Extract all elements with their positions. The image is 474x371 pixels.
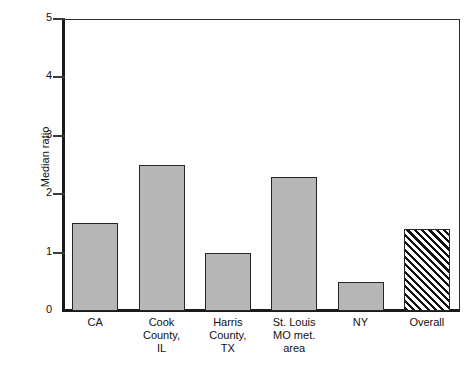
y-tick-label: 2 — [46, 186, 52, 198]
x-axis-label-line: MO met. — [261, 329, 327, 342]
bar — [139, 165, 185, 311]
y-tick-label: 4 — [46, 69, 52, 81]
x-axis-label: CookCounty,IL — [128, 316, 194, 355]
x-axis-label-line: IL — [128, 342, 194, 355]
x-axis-label-line: Cook — [128, 316, 194, 329]
y-axis-title: Median ratio — [34, 2, 56, 312]
bar — [205, 253, 251, 311]
x-axis-label-line: Harris — [195, 316, 261, 329]
bar — [271, 177, 317, 311]
y-tick-label: 3 — [46, 128, 52, 140]
x-axis-label-line: St. Louis — [261, 316, 327, 329]
y-tick-label: 1 — [46, 245, 52, 257]
y-tick-label: 0 — [46, 303, 52, 315]
x-axis-label-line: NY — [327, 316, 393, 329]
bar — [72, 223, 118, 311]
x-axis-labels: CACookCounty,ILHarrisCounty,TXSt. LouisM… — [62, 316, 460, 371]
x-axis-label-line: CA — [62, 316, 128, 329]
bar — [338, 282, 384, 311]
x-axis-label-line: Overall — [394, 316, 460, 329]
x-axis-label: NY — [327, 316, 393, 329]
x-axis-label: CA — [62, 316, 128, 329]
x-axis-label: Overall — [394, 316, 460, 329]
x-axis-label-line: TX — [195, 342, 261, 355]
bar — [404, 229, 450, 311]
x-axis-label-line: area — [261, 342, 327, 355]
bar-chart: Median ratio 012345 CACookCounty,ILHarri… — [0, 0, 474, 371]
y-tick-label: 5 — [46, 11, 52, 23]
x-axis-label-line: County, — [195, 329, 261, 342]
x-axis-label-line: County, — [128, 329, 194, 342]
bars-layer — [62, 19, 460, 311]
x-axis-label: HarrisCounty,TX — [195, 316, 261, 355]
x-axis-label: St. LouisMO met.area — [261, 316, 327, 355]
